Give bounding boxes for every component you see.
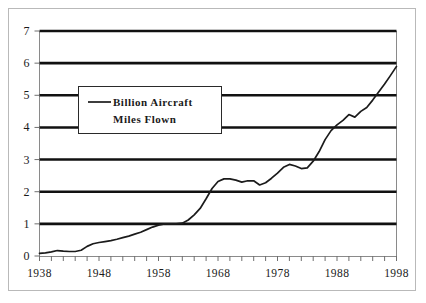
y-tick-label-0: 0 <box>24 249 30 263</box>
y-tick-label-2: 2 <box>24 185 30 199</box>
y-axis-ticks: 01234567 <box>24 24 40 263</box>
chart-svg: 01234567 1938194819581968197819881998 Bi… <box>0 0 426 303</box>
x-tick-label-1958: 1958 <box>146 267 171 279</box>
y-tick-label-4: 4 <box>24 120 30 134</box>
x-tick-label-1978: 1978 <box>265 267 290 279</box>
y-tick-label-5: 5 <box>24 88 30 102</box>
legend-label-line1: Billion Aircraft <box>113 96 193 108</box>
y-tick-label-7: 7 <box>24 24 30 38</box>
chart-page: 01234567 1938194819581968197819881998 Bi… <box>0 0 426 303</box>
x-tick-label-1938: 1938 <box>27 267 52 279</box>
legend: Billion Aircraft Miles Flown <box>79 87 222 134</box>
y-tick-label-6: 6 <box>24 56 30 70</box>
x-tick-label-1968: 1968 <box>206 267 231 279</box>
x-tick-label-1948: 1948 <box>87 267 112 279</box>
legend-box <box>79 87 222 134</box>
x-tick-label-1988: 1988 <box>325 267 350 279</box>
x-axis-ticks: 1938194819581968197819881998 <box>27 256 409 279</box>
y-tick-label-1: 1 <box>24 217 30 231</box>
line-chart: 01234567 1938194819581968197819881998 Bi… <box>0 0 426 303</box>
legend-label-line2: Miles Flown <box>113 113 176 125</box>
y-tick-label-3: 3 <box>24 153 30 167</box>
x-tick-label-1998: 1998 <box>384 267 409 279</box>
